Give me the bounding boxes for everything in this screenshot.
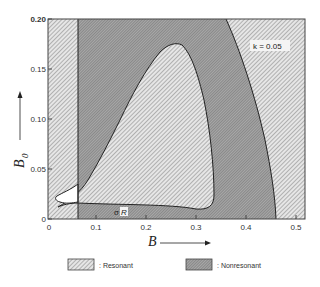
R-label: R — [121, 208, 127, 217]
k-annotation: k = 0.05 — [253, 42, 282, 51]
y-axis-arrow-head — [18, 91, 23, 98]
x-tick-04: 0.4 — [240, 223, 252, 232]
y-tick-015: 0.15 — [30, 65, 46, 74]
y-axis-title: B — [12, 159, 27, 168]
x-tick-05: 0.5 — [290, 223, 302, 232]
legend: : Resonant : Nonresonant — [68, 259, 261, 270]
x-axis-arrow-head — [205, 241, 211, 246]
y-axis-title-group: B 0 — [12, 153, 30, 168]
phase-diagram: 0 0.05 0.10 0.15 0.20 0 0.1 0.2 0.3 0.4 … — [0, 0, 320, 287]
y-tick-010: 0.10 — [30, 115, 46, 124]
legend-label-nonresonant: : Nonresonant — [217, 262, 261, 269]
x-tick-01: 0.1 — [90, 223, 102, 232]
x-tick-02: 0.2 — [140, 223, 152, 232]
y-tick-020: 0.20 — [30, 15, 46, 24]
legend-swatch-nonresonant — [186, 259, 212, 270]
legend-swatch-resonant — [68, 259, 94, 270]
y-axis-subscript: 0 — [20, 153, 30, 158]
R-marker: σ — [114, 208, 119, 217]
x-tick-0: 0 — [47, 223, 52, 232]
legend-label-resonant: : Resonant — [99, 262, 133, 269]
x-tick-03: 0.3 — [190, 223, 202, 232]
x-axis-title: B — [148, 234, 157, 249]
y-tick-005: 0.05 — [30, 165, 46, 174]
